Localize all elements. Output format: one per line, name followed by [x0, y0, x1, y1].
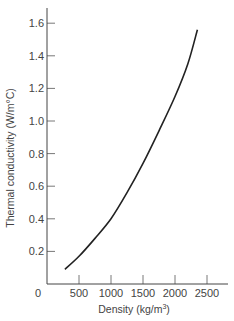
- y-tick-label: 0.2: [29, 245, 44, 257]
- x-axis-title: Density (kg/m3): [98, 303, 170, 315]
- x-tick-label: 2500: [195, 287, 219, 299]
- x-tick-label: 1500: [131, 287, 155, 299]
- x-tick-label: 500: [70, 287, 88, 299]
- y-axis-ticks: 0.20.40.60.81.01.21.41.6: [29, 17, 55, 257]
- y-tick-label: 1.6: [29, 17, 44, 29]
- y-tick-label: 0.6: [29, 180, 44, 192]
- x-tick-label: 0: [35, 287, 41, 299]
- y-tick-label: 1.4: [29, 50, 44, 62]
- y-tick-label: 0.8: [29, 148, 44, 160]
- data-curve: [65, 30, 197, 270]
- x-tick-label: 1000: [99, 287, 123, 299]
- x-axis-ticks: 05001000150020002500: [35, 275, 219, 299]
- x-tick-label: 2000: [163, 287, 187, 299]
- y-axis-title: Thermal conductivity (W/m°C): [4, 88, 16, 228]
- chart: 0.20.40.60.81.01.21.41.6 050010001500200…: [0, 0, 234, 321]
- y-tick-label: 1.2: [29, 82, 44, 94]
- y-tick-label: 1.0: [29, 115, 44, 127]
- y-tick-label: 0.4: [29, 213, 44, 225]
